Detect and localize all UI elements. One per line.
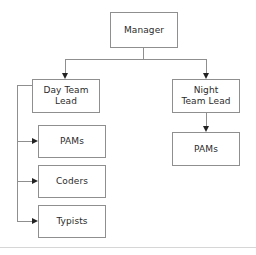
- connector-manager-to-day-lead: [65, 59, 66, 73]
- connector-manager-bus: [65, 59, 207, 60]
- connector-day-lead-stub: [17, 85, 33, 86]
- node-day-pams: PAMs: [38, 125, 106, 158]
- footer-divider: [0, 247, 256, 248]
- connector-manager-stem: [143, 48, 144, 59]
- connector-day-lead-to-typists: [17, 221, 33, 222]
- org-chart-diagram: Manager Day Team Lead Night Team Lead PA…: [0, 0, 256, 255]
- node-night-team-lead: Night Team Lead: [172, 79, 240, 113]
- connector-day-lead-to-pams: [17, 141, 33, 142]
- node-night-pams: PAMs: [172, 132, 240, 166]
- connector-day-lead-to-coders: [17, 181, 33, 182]
- connector-day-lead-spine: [17, 85, 18, 222]
- node-day-typists: Typists: [38, 205, 106, 238]
- node-manager: Manager: [110, 12, 178, 48]
- connector-night-lead-to-pams: [206, 113, 207, 126]
- node-day-coders: Coders: [38, 165, 106, 198]
- node-day-team-lead: Day Team Lead: [32, 79, 100, 113]
- connector-manager-to-night-lead: [206, 59, 207, 73]
